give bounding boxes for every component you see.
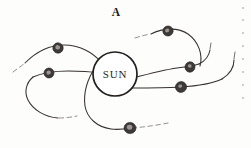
margin-fleck: [242, 58, 244, 60]
trajectory-mid-right-tick: [210, 43, 211, 49]
trajectory-lower-right-curl: [222, 60, 234, 79]
figure-canvas: SUN: [0, 0, 251, 148]
trajectory-mid-left-tail: [26, 77, 58, 118]
margin-fleck: [242, 84, 244, 86]
trajectory-upper-right: [151, 29, 201, 66]
margin-flecks: [242, 7, 244, 99]
body-lower-right: [175, 81, 188, 94]
sun-group: SUN: [93, 52, 137, 96]
margin-fleck: [242, 97, 244, 99]
margin-fleck: [242, 45, 244, 47]
body-upper-right: [161, 25, 174, 38]
trajectory-lower-right-tick: [234, 52, 235, 59]
margin-fleck: [242, 7, 244, 9]
trajectory-bottom-dash: [132, 123, 168, 128]
body-mid-left: [44, 68, 55, 79]
figure-label-a: A: [112, 6, 121, 18]
body-upper-left: [52, 42, 64, 54]
body-bottom: [124, 122, 137, 134]
trajectory-upper-right-lead: [135, 34, 150, 38]
margin-fleck: [242, 19, 244, 21]
margin-fleck: [242, 32, 244, 34]
trajectory-upper-left-lead: [13, 64, 24, 72]
margin-fleck: [242, 71, 244, 73]
sun-label: SUN: [103, 68, 127, 80]
body-mid-right: [184, 61, 196, 74]
trajectory-mid-left-tail-dash: [59, 116, 77, 118]
solar-trajectory-figure: SUN: [0, 0, 251, 148]
